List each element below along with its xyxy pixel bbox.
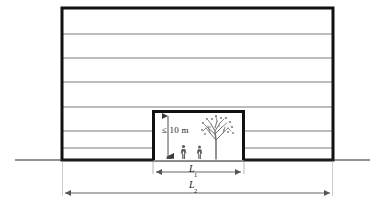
l2-label: L2	[189, 179, 198, 192]
figure-canvas: ≤ 10 m L1 L2	[0, 0, 387, 212]
l1-label-subscript: 1	[194, 171, 197, 178]
opening-height-label: ≤ 10 m	[162, 125, 189, 135]
l1-label: L1	[189, 163, 198, 176]
l2-label-subscript: 2	[194, 187, 197, 194]
l1-dimension	[153, 161, 244, 174]
figure-caption	[0, 204, 387, 212]
